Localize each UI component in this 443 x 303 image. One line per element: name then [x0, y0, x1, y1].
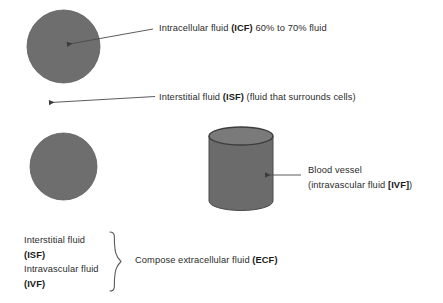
- isf-label-suffix: (fluid that surrounds cells): [244, 92, 356, 102]
- list-item-text: Interstitial fluid: [24, 235, 85, 245]
- ecf-brace-shape: [110, 232, 121, 291]
- list-item: Intravascular fluid: [24, 262, 99, 277]
- cell-circle-top-shape: [27, 10, 100, 83]
- list-item: Interstitial fluid: [24, 233, 99, 248]
- ecf-label-prefix: Compose extracellular fluid: [135, 255, 252, 265]
- diagram-canvas: Intracellular fluid (ICF) 60% to 70% flu…: [0, 0, 443, 303]
- list-item: (IVF): [24, 277, 99, 292]
- isf-label-prefix: Interstitial fluid: [159, 92, 223, 102]
- list-item-text: (IVF): [24, 279, 45, 289]
- blood-vessel-cylinder-shape: [209, 127, 273, 211]
- icf-label-abbrev: (ICF): [231, 23, 253, 33]
- list-item-text: (ISF): [24, 250, 45, 260]
- ecf-label-abbrev: (ECF): [252, 255, 277, 265]
- ivf-label-suffix: ): [409, 180, 412, 190]
- icf-label: Intracellular fluid (ICF) 60% to 70% flu…: [159, 22, 327, 35]
- isf-label-abbrev: (ISF): [223, 92, 244, 102]
- icf-label-suffix: 60% to 70% fluid: [253, 23, 327, 33]
- ecf-components-list: Interstitial fluid (ISF) Intravascular f…: [24, 233, 99, 291]
- isf-arrow-line: [49, 97, 155, 103]
- cell-circle-bottom-shape: [30, 133, 97, 200]
- ivf-label-abbrev: [IVF]: [388, 180, 409, 190]
- isf-label: Interstitial fluid (ISF) (fluid that sur…: [159, 91, 356, 104]
- blood-vessel-label-line1: Blood vessel: [308, 163, 412, 178]
- ivf-label-prefix: (intravascular fluid: [308, 180, 388, 190]
- blood-vessel-label: Blood vessel (intravascular fluid [IVF]): [308, 163, 412, 192]
- ecf-label: Compose extracellular fluid (ECF): [135, 254, 278, 267]
- blood-vessel-label-line2: (intravascular fluid [IVF]): [308, 178, 412, 193]
- list-item: (ISF): [24, 248, 99, 263]
- icf-label-prefix: Intracellular fluid: [159, 23, 231, 33]
- list-item-text: Intravascular fluid: [24, 264, 99, 274]
